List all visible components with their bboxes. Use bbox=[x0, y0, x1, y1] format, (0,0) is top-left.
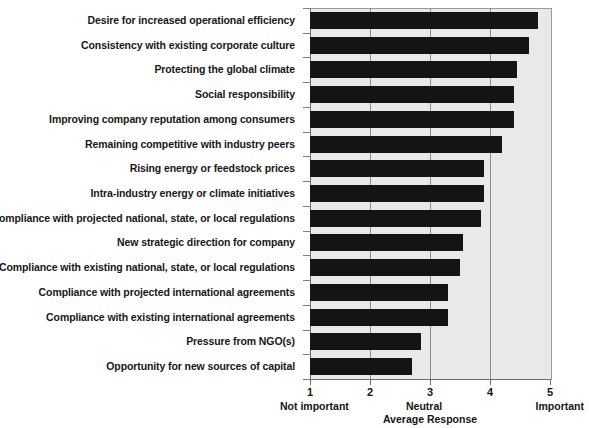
y-axis-tick bbox=[303, 206, 310, 207]
bar bbox=[310, 333, 421, 350]
category-label: Social responsibility bbox=[195, 88, 295, 100]
bar bbox=[310, 136, 502, 153]
bar bbox=[310, 185, 484, 202]
x-axis-tick-label: 1 bbox=[290, 386, 330, 398]
x-axis-tick bbox=[490, 379, 491, 385]
category-label: Consistency with existing corporate cult… bbox=[81, 39, 295, 51]
y-axis-tick bbox=[303, 181, 310, 182]
category-labels-group: Desire for increased operational efficie… bbox=[0, 0, 303, 379]
y-axis-tick bbox=[303, 305, 310, 306]
category-label: Intra-industry energy or climate initiat… bbox=[91, 187, 296, 199]
category-label: Remaining competitive with industry peer… bbox=[85, 138, 295, 150]
scale-anchor-label: Neutral bbox=[406, 400, 442, 412]
category-label: Compliance with projected national, stat… bbox=[0, 212, 295, 224]
y-axis-tick bbox=[303, 354, 310, 355]
category-label: Compliance with existing international a… bbox=[46, 311, 295, 323]
category-label: Desire for increased operational efficie… bbox=[87, 14, 295, 26]
y-axis-tick bbox=[303, 379, 310, 380]
category-label: Compliance with projected international … bbox=[39, 286, 295, 298]
bar bbox=[310, 37, 529, 54]
bar bbox=[310, 259, 460, 276]
x-axis-title: Average Response bbox=[310, 413, 550, 425]
y-axis-tick bbox=[303, 8, 310, 9]
y-axis-tick bbox=[303, 57, 310, 58]
y-axis-tick bbox=[303, 330, 310, 331]
x-axis-tick bbox=[310, 379, 311, 385]
y-axis-tick bbox=[303, 156, 310, 157]
x-axis-tick-label: 3 bbox=[410, 386, 450, 398]
category-label: Compliance with existing national, state… bbox=[0, 261, 295, 273]
y-axis-tick bbox=[303, 82, 310, 83]
y-axis-tick bbox=[303, 280, 310, 281]
y-axis-tick bbox=[303, 132, 310, 133]
bar bbox=[310, 358, 412, 375]
x-axis-tick-label: 5 bbox=[530, 386, 570, 398]
bar bbox=[310, 309, 448, 326]
scale-anchor-label: Not important bbox=[280, 400, 349, 412]
bar-chart: Desire for increased operational efficie… bbox=[0, 0, 589, 428]
y-axis-tick bbox=[303, 255, 310, 256]
x-axis-tick-label: 4 bbox=[470, 386, 510, 398]
bar bbox=[310, 234, 463, 251]
category-label: Opportunity for new sources of capital bbox=[106, 360, 295, 372]
bar bbox=[310, 111, 514, 128]
y-axis-tick bbox=[303, 33, 310, 34]
bar bbox=[310, 210, 481, 227]
category-label: Pressure from NGO(s) bbox=[186, 335, 295, 347]
bar bbox=[310, 12, 538, 29]
x-axis-tick bbox=[550, 379, 551, 385]
x-axis-tick bbox=[370, 379, 371, 385]
bar bbox=[310, 86, 514, 103]
category-label: New strategic direction for company bbox=[117, 236, 295, 248]
x-axis-tick bbox=[430, 379, 431, 385]
category-label: Rising energy or feedstock prices bbox=[130, 162, 295, 174]
bar bbox=[310, 61, 517, 78]
y-axis-tick bbox=[303, 107, 310, 108]
x-axis-tick-label: 2 bbox=[350, 386, 390, 398]
scale-anchor-label: Important bbox=[536, 400, 584, 412]
category-label: Protecting the global climate bbox=[154, 63, 295, 75]
y-axis-tick bbox=[303, 231, 310, 232]
bar bbox=[310, 160, 484, 177]
category-label: Improving company reputation among consu… bbox=[49, 113, 295, 125]
bar bbox=[310, 284, 448, 301]
